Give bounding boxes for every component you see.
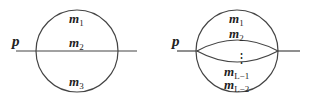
mass-label-1: m1 (69, 11, 84, 28)
mass-label-3: m3 (69, 74, 84, 91)
mass-label-2: m2 (229, 26, 244, 43)
banana-diagram: p m1 m2 ⋮ mL−1 mL−2 (170, 10, 300, 94)
momentum-label: p (170, 33, 180, 49)
momentum-label: p (10, 33, 20, 49)
mass-label-2: m2 (69, 35, 84, 52)
feynman-diagrams: p m1 m2 m3 p m1 m2 ⋮ mL−1 mL−2 (0, 0, 310, 98)
sunset-diagram: p m1 m2 m3 (10, 10, 137, 92)
ellipsis: ⋮ (235, 50, 248, 65)
